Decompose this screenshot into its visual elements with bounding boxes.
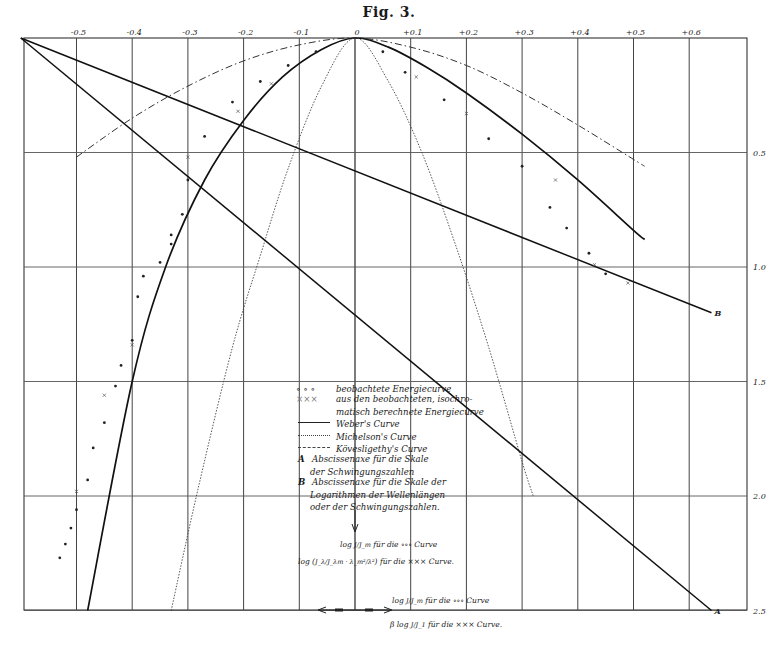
legend-label: oder der Schwingungszahlen. xyxy=(310,502,440,512)
legend-label: Abscissenaxe für die Skale der xyxy=(312,477,446,487)
legend-item: Kövesligethy's Curve xyxy=(296,442,536,454)
observed-point-marker xyxy=(75,508,78,511)
x-tick-label: -0.2 xyxy=(238,28,253,37)
dashdot-line-icon xyxy=(296,442,336,452)
legend-item: AAbscissenaxe für die Skale xyxy=(296,454,536,464)
observed-point-marker xyxy=(92,447,95,450)
legend-item: Weber's Curve xyxy=(296,417,536,429)
legend-label: matisch berechnete Energiecurve xyxy=(336,407,484,417)
observed-point-marker xyxy=(521,165,524,168)
observed-point-marker xyxy=(287,64,290,67)
isochromatic-marker-icon: ××× xyxy=(296,394,336,404)
annotation-text: für die ××× Curve. xyxy=(428,620,502,629)
legend-label: beobachtete Energiecurve xyxy=(336,384,451,394)
annotation-fraction: J/J_1 xyxy=(411,621,426,629)
isochromatic-x-marker xyxy=(103,394,106,397)
observed-point-marker xyxy=(159,261,162,264)
annotation-text: log ( xyxy=(298,557,315,566)
legend-label: Abscissenaxe für die Skale xyxy=(312,454,429,464)
observed-point-marker xyxy=(203,135,206,138)
legend-item: ×××aus den beobachteten, isochro- xyxy=(296,394,536,404)
observed-point-marker xyxy=(381,50,384,53)
observed-point-marker xyxy=(64,543,67,546)
x-axis-ticks: -0.5-0.4-0.3-0.2-0.10+0.1+0.2+0.3+0.4+0.… xyxy=(71,28,701,37)
legend-item: matisch berechnete Energiecurve xyxy=(296,405,536,417)
x-tick-label: +0.5 xyxy=(626,28,645,37)
legend-item: oder der Schwingungszahlen. xyxy=(296,500,536,512)
legend-label: Kövesligethy's Curve xyxy=(336,444,427,454)
observed-point-marker xyxy=(120,364,123,367)
kovesligethy-curve xyxy=(77,38,645,166)
observed-point-marker xyxy=(58,556,61,559)
annotation-fraction: J_λ/J_λm · λ_m²/λ² xyxy=(315,558,375,566)
observed-point-marker xyxy=(604,272,607,275)
abscissa-line-a xyxy=(21,38,712,611)
annotation-b-log-observed: log J/J_m für die ∘∘∘ Curve xyxy=(392,596,489,605)
y-tick-label: 1.0 xyxy=(753,263,766,272)
observed-point-marker xyxy=(136,295,139,298)
observed-point-marker xyxy=(565,227,568,230)
observed-marker-icon: ∘ ∘ ∘ xyxy=(296,384,336,394)
legend-label: aus den beobachteten, isochro- xyxy=(336,394,472,404)
observed-point-marker xyxy=(114,385,117,388)
annotation-text: log xyxy=(392,596,404,605)
isochromatic-x-marker xyxy=(236,110,239,113)
x-tick-label: +0.4 xyxy=(570,28,589,37)
legend-spacer xyxy=(296,405,336,415)
annotation-log-isochromatic: log (J_λ/J_λm · λ_m²/λ²) für die ××× Cur… xyxy=(298,557,454,566)
observed-point-marker xyxy=(181,213,184,216)
observed-point-marker xyxy=(187,179,190,182)
isochromatic-x-marker xyxy=(415,75,418,78)
x-tick-label: -0.4 xyxy=(126,28,141,37)
x-tick-label: +0.6 xyxy=(681,28,700,37)
x-tick-label: +0.3 xyxy=(514,28,533,37)
solid-line-icon xyxy=(296,417,336,427)
legend-item: der Schwingungszahlen xyxy=(296,465,536,477)
abscissa-line-a-label: A xyxy=(713,606,720,616)
legend-spacer xyxy=(296,500,310,510)
observed-point-marker xyxy=(259,80,262,83)
x-tick-label: -0.1 xyxy=(294,28,309,37)
observed-point-marker xyxy=(315,50,318,53)
observed-point-marker xyxy=(131,339,134,342)
annotation-text: log xyxy=(340,540,352,549)
dotted-line-icon xyxy=(296,430,336,440)
legend-label: Michelson's Curve xyxy=(336,432,417,442)
annotation-text: für die ∘∘∘ Curve xyxy=(373,540,437,549)
axis-dash-mark xyxy=(335,609,343,612)
isochromatic-x-marker xyxy=(554,178,557,181)
abscissa-line-b-label: B xyxy=(713,308,721,318)
observed-point-marker xyxy=(487,137,490,140)
abscissa-line-b xyxy=(21,38,712,313)
observed-point-marker xyxy=(231,101,234,104)
isochromatic-x-marker xyxy=(270,82,273,85)
annotation-text: β log xyxy=(390,620,408,629)
legend-label: der Schwingungszahlen xyxy=(310,467,414,477)
legend-item: Michelson's Curve xyxy=(296,430,536,442)
y-tick-label: 2.0 xyxy=(752,492,766,501)
observed-point-marker xyxy=(549,206,552,209)
x-tick-label: +0.1 xyxy=(403,28,422,37)
axis-dash-mark xyxy=(365,609,373,612)
annotation-b-beta-log: β log J/J_1 für die ××× Curve. xyxy=(390,620,502,629)
x-tick-label: +0.2 xyxy=(459,28,478,37)
observed-point-marker xyxy=(86,479,89,482)
legend-item: Logarithmen der Wellenlängen xyxy=(296,488,536,500)
legend-spacer xyxy=(296,488,310,498)
observed-point-marker xyxy=(70,527,73,530)
y-tick-label: 1.5 xyxy=(753,378,766,387)
legend: ∘ ∘ ∘beobachtete Energiecurve×××aus den … xyxy=(296,384,536,512)
annotation-fraction: J/J_m xyxy=(354,541,371,549)
legend-spacer xyxy=(296,465,310,475)
x-tick-label: -0.3 xyxy=(182,28,197,37)
observed-point-marker xyxy=(170,243,173,246)
observed-point-marker xyxy=(103,421,106,424)
annotation-text: für die ∘∘∘ Curve xyxy=(425,596,489,605)
y-tick-label: 2.5 xyxy=(752,607,766,616)
y-tick-label: 0.5 xyxy=(753,149,766,158)
observed-point-marker xyxy=(443,98,446,101)
legend-label: Logarithmen der Wellenlängen xyxy=(310,490,445,500)
legend-item: ∘ ∘ ∘beobachtete Energiecurve xyxy=(296,384,536,394)
series-layer xyxy=(21,38,712,611)
annotation-log-observed: log J/J_m für die ∘∘∘ Curve xyxy=(340,540,437,549)
